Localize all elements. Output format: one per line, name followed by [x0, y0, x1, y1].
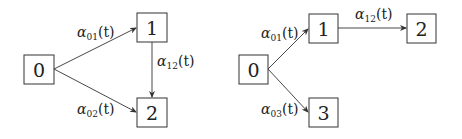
svg-text:3: 3 [317, 102, 329, 124]
transition-label-01: α01(t) [77, 24, 114, 42]
transition-label-01: α01(t) [261, 25, 298, 43]
multistate-diagrams: 0 1 2 α01(t) α02(t) α12(t) 0 1 [0, 0, 462, 139]
state-node-1: 1 [309, 14, 338, 43]
state-node-0: 0 [239, 55, 268, 84]
svg-text:1: 1 [146, 17, 158, 39]
edge-0-to-2 [54, 69, 136, 112]
svg-text:0: 0 [247, 59, 259, 81]
state-node-2: 2 [137, 98, 167, 127]
svg-text:2: 2 [146, 102, 158, 124]
transition-label-12: α12(t) [355, 6, 392, 24]
svg-text:0: 0 [33, 59, 45, 81]
transition-label-12: α12(t) [157, 53, 194, 71]
state-node-1: 1 [137, 13, 167, 42]
state-node-2: 2 [407, 14, 436, 43]
diagram-right: 0 1 2 3 α01(t) α12(t) α03(t) [239, 6, 436, 127]
transition-label-03: α03(t) [261, 101, 298, 119]
diagram-left: 0 1 2 α01(t) α02(t) α12(t) [24, 13, 194, 127]
state-node-0: 0 [24, 55, 54, 84]
svg-text:2: 2 [415, 18, 427, 40]
state-node-3: 3 [309, 98, 338, 127]
transition-label-02: α02(t) [77, 101, 114, 119]
svg-text:1: 1 [317, 18, 329, 40]
